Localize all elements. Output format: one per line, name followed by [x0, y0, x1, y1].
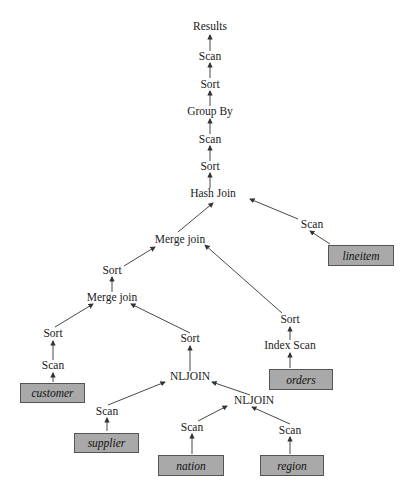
node-sort-left: Sort [102, 265, 121, 277]
node-results: Results [193, 21, 227, 33]
query-plan-diagram: Results Scan Sort Group By Scan Sort Has… [0, 0, 412, 497]
node-sort-customer: Sort [43, 328, 62, 340]
edge-nljoininner-to-nljoin [212, 382, 250, 395]
node-sort-orders: Sort [280, 314, 299, 326]
node-scan-lineitem: Scan [301, 219, 323, 231]
node-hash-join: Hash Join [190, 188, 236, 200]
node-scan-customer: Scan [42, 360, 64, 372]
edge-sortcust-to-mergejoin [55, 304, 93, 327]
table-customer: customer [20, 383, 85, 403]
node-merge-join-upper: Merge join [155, 234, 206, 246]
node-sort-nljoin: Sort [180, 333, 199, 345]
edge-scanregion-to-nljoin [252, 407, 290, 424]
node-index-scan: Index Scan [264, 340, 315, 352]
node-scan-top: Scan [199, 51, 221, 63]
table-supplier: supplier [74, 433, 139, 453]
node-nljoin-inner: NLJOIN [234, 395, 274, 407]
edge-mergejoin-to-hashjoin [178, 203, 213, 232]
node-scan-2: Scan [199, 134, 221, 146]
table-nation: nation [158, 455, 224, 476]
edge-scannation-to-nljoin [198, 406, 227, 421]
node-merge-join-lower: Merge join [87, 292, 138, 304]
node-scan-region: Scan [279, 425, 301, 437]
node-sort-2: Sort [200, 161, 219, 173]
node-group-by: Group By [187, 106, 233, 118]
edge-sortnl-to-mergejoin [131, 304, 190, 333]
node-sort-top: Sort [200, 79, 219, 91]
edge-sortorders-to-mergejoin [205, 245, 282, 313]
edge-scansupp-to-nljoin [108, 382, 165, 405]
node-scan-supplier: Scan [96, 406, 118, 418]
edge-scan-to-hashjoin [250, 199, 298, 219]
table-region: region [260, 455, 324, 476]
node-scan-nation: Scan [181, 422, 203, 434]
edge-sort-to-mergejoin [124, 247, 155, 266]
edge-lineitem-to-scan [310, 231, 330, 244]
table-orders: orders [269, 369, 333, 390]
table-lineitem: lineitem [328, 245, 394, 266]
node-nljoin-outer: NLJOIN [170, 371, 210, 383]
